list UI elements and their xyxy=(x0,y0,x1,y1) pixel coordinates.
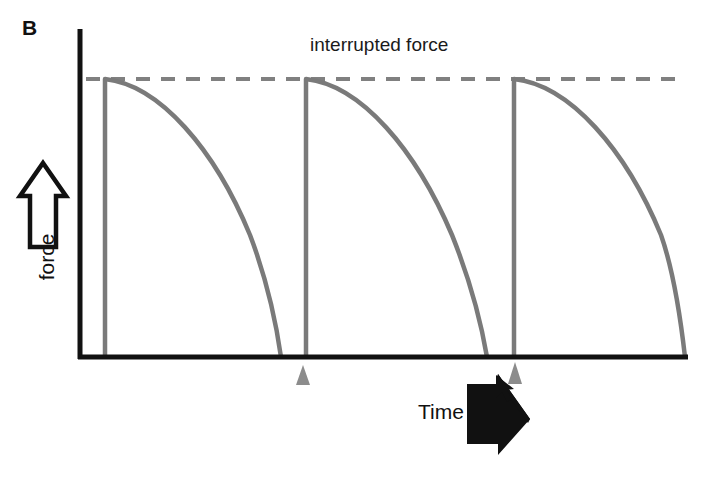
y-axis-label: force xyxy=(35,202,59,312)
interruption-marker-2 xyxy=(508,362,522,384)
x-axis-label: Time xyxy=(418,400,464,424)
figure-panel-b: B interrupted force force Time xyxy=(0,0,715,501)
force-curve-cycle-2 xyxy=(306,79,487,357)
force-curve-cycle-1 xyxy=(105,79,281,357)
force-curve-cycle-3 xyxy=(514,79,685,357)
interruption-marker-1 xyxy=(296,365,310,385)
panel-letter: B xyxy=(22,16,38,40)
force-time-plot xyxy=(0,0,715,501)
interrupted-force-label: interrupted force xyxy=(310,34,448,56)
